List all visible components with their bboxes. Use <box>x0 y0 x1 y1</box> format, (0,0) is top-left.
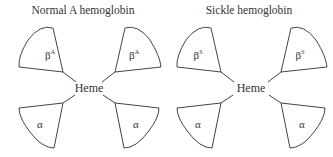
beta-label-top-right: βS <box>296 49 305 61</box>
beta-label-top-left: βA <box>45 49 55 61</box>
sickle-hemoglobin-panel: Sickle hemoglobin βS βS α α Heme <box>166 0 332 157</box>
beta-subunit-top-left <box>19 27 63 72</box>
subunit-shapes <box>166 0 333 157</box>
alpha-label-bottom-left: α <box>195 118 201 130</box>
heme-label: Heme <box>75 81 104 96</box>
heme-label: Heme <box>237 81 266 96</box>
subunit-shapes <box>0 0 166 157</box>
beta-label-top-left: βS <box>194 49 203 61</box>
beta-label-top-right: βA <box>129 49 139 61</box>
alpha-label-bottom-right: α <box>133 118 139 130</box>
alpha-label-bottom-left: α <box>37 118 43 130</box>
normal-hemoglobin-panel: Normal A hemoglobin βA βA α α Heme <box>0 0 166 157</box>
alpha-label-bottom-right: α <box>299 118 305 130</box>
